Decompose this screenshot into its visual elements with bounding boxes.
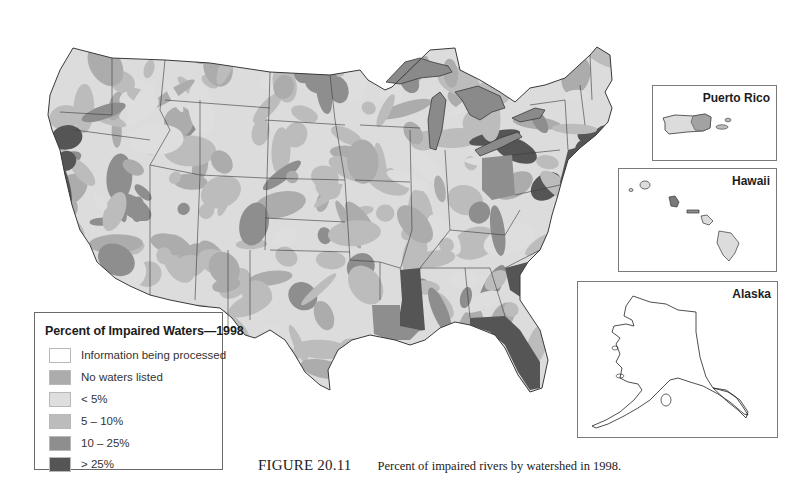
watershed-region: [438, 370, 452, 385]
oahu-island: [669, 196, 679, 207]
watershed-region: [584, 207, 613, 236]
molokai-island: [687, 210, 699, 213]
southeast-panhandle: [713, 388, 748, 418]
watershed-region: [190, 25, 229, 66]
legend-label: 5 – 10%: [81, 415, 123, 427]
legend-item-under-5: < 5%: [49, 391, 108, 407]
vieques-island: [716, 125, 728, 129]
watershed-region: [28, 217, 84, 269]
watershed-region: [430, 368, 466, 392]
watershed-region: [529, 261, 544, 275]
watershed-region: [358, 41, 397, 74]
legend-item-5-10: 5 – 10%: [49, 413, 123, 429]
watershed-region: [545, 349, 577, 383]
watershed-region: [552, 292, 566, 311]
maui-island: [701, 215, 713, 225]
legend-label: > 25%: [81, 458, 114, 470]
puerto-rico-map: [653, 86, 778, 162]
legend-label: Information being processed: [81, 349, 226, 361]
watershed-region: [547, 322, 571, 360]
legend-swatch: [49, 414, 71, 429]
alaska-map: [578, 282, 779, 439]
watershed-region: [523, 269, 562, 305]
watershed-region: [549, 223, 601, 268]
watershed-region: [566, 233, 596, 262]
legend-label: 10 – 25%: [81, 437, 130, 449]
watershed-region: [455, 341, 489, 378]
legend-swatch: [49, 436, 71, 451]
watershed-region: [552, 269, 574, 293]
watershed-region: [564, 261, 575, 278]
watershed-region: [34, 191, 70, 225]
niihau-island: [629, 189, 633, 192]
legend-swatch: [49, 348, 71, 363]
inset-puerto-rico: Puerto Rico: [652, 85, 777, 161]
legend-swatch: [49, 392, 71, 407]
watershed-region: [64, 208, 74, 247]
watershed-region: [255, 352, 276, 376]
puerto-rico-east-region: [691, 114, 711, 131]
st-lawrence-island: [612, 346, 618, 350]
kodiak-island: [661, 394, 671, 406]
watershed-region: [431, 331, 476, 376]
legend-title: Percent of Impaired Waters—1998: [45, 324, 244, 338]
watershed-region: [200, 38, 213, 66]
legend-label: < 5%: [81, 393, 108, 405]
watershed-region: [437, 340, 471, 373]
watershed-region: [469, 344, 500, 370]
kauai-island: [640, 181, 650, 189]
legend-swatch: [49, 457, 71, 472]
watershed-region: [578, 238, 598, 267]
legend-label: No waters listed: [81, 371, 163, 383]
hawaii-big-island: [717, 231, 739, 261]
legend: Percent of Impaired Waters—1998 Informat…: [34, 312, 223, 470]
inset-hawaii: Hawaii: [618, 168, 777, 272]
alaska-outline: [592, 296, 748, 428]
legend-item-info-processing: Information being processed: [49, 347, 226, 363]
legend-item-10-25: 10 – 25%: [49, 435, 130, 451]
state-ohio: [482, 155, 515, 200]
watershed-region: [590, 254, 618, 284]
watershed-region: [447, 337, 494, 370]
watershed-region: [60, 253, 81, 272]
watershed-region: [448, 271, 477, 289]
watershed-region: [547, 366, 566, 380]
culebra-island: [725, 118, 731, 122]
watershed-region: [352, 351, 396, 392]
watershed-region: [581, 169, 605, 191]
hawaii-map: [619, 169, 778, 273]
legend-swatch: [49, 370, 71, 385]
watershed-region: [480, 372, 502, 392]
figure-caption-text: Percent of impaired rivers by watershed …: [378, 459, 622, 473]
watershed-region: [381, 350, 433, 398]
figure-caption: FIGURE 20.11 Percent of impaired rivers …: [258, 456, 621, 474]
legend-item-over-25: > 25%: [49, 456, 114, 472]
legend-item-no-waters: No waters listed: [49, 369, 163, 385]
figure-label: FIGURE 20.11: [258, 457, 352, 473]
inset-alaska: Alaska: [577, 281, 778, 438]
